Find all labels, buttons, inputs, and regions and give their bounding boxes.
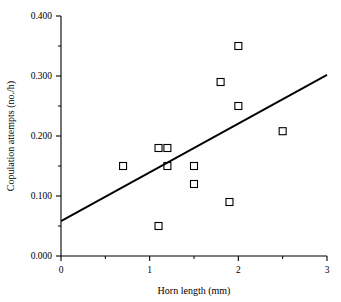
- data-point-4: [155, 223, 162, 230]
- y-axis-title: Copulation attempts (no./h): [5, 81, 17, 191]
- ticks-group: [56, 16, 327, 261]
- data-points-group: [120, 43, 287, 230]
- data-point-0: [120, 163, 127, 170]
- y-tick-label-0.100: 0.100: [31, 191, 53, 201]
- data-point-10: [235, 103, 242, 110]
- data-point-5: [191, 163, 198, 170]
- y-tick-label-0.300: 0.300: [31, 71, 53, 81]
- data-point-9: [235, 43, 242, 50]
- data-point-11: [279, 128, 286, 135]
- data-point-8: [226, 199, 233, 206]
- data-point-6: [191, 181, 198, 188]
- y-tick-label-0.000: 0.000: [31, 251, 53, 261]
- tick-labels-group: 01230.0000.1000.2000.3000.400: [31, 11, 330, 275]
- y-tick-label-0.400: 0.400: [31, 11, 53, 21]
- y-tick-label-0.200: 0.200: [31, 131, 53, 141]
- chart-figure: 01230.0000.1000.2000.3000.400 Horn lengt…: [0, 0, 341, 302]
- x-tick-label-2: 2: [236, 265, 241, 275]
- x-tick-label-1: 1: [147, 265, 152, 275]
- regression-line-group: [61, 75, 327, 221]
- data-point-2: [164, 145, 171, 152]
- data-point-1: [155, 145, 162, 152]
- regression-line: [61, 75, 327, 221]
- x-tick-label-3: 3: [325, 265, 330, 275]
- x-tick-label-0: 0: [59, 265, 64, 275]
- x-axis-title: Horn length (mm): [158, 285, 231, 297]
- axes-group: [61, 16, 327, 256]
- scatter-plot-svg: 01230.0000.1000.2000.3000.400 Horn lengt…: [0, 0, 341, 302]
- data-point-7: [217, 79, 224, 86]
